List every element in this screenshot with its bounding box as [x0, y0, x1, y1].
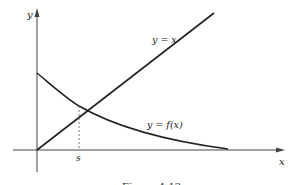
- f-curve: [37, 73, 228, 149]
- x-axis-arrow-icon: [276, 148, 285, 153]
- intersection-label: s: [76, 153, 81, 163]
- y-axis-label: y: [26, 9, 33, 20]
- y-axis-arrow-icon: [35, 8, 40, 17]
- identity-line-label: y = x: [151, 34, 177, 45]
- f-curve-label: y = f(x): [146, 119, 183, 130]
- x-axis-label: x: [279, 156, 285, 167]
- figure-caption: Figure 4.12: [122, 181, 181, 185]
- fixed-point-diagram: y x y = x y = f(x) s Figure 4.12: [0, 0, 295, 185]
- identity-line: [37, 13, 214, 150]
